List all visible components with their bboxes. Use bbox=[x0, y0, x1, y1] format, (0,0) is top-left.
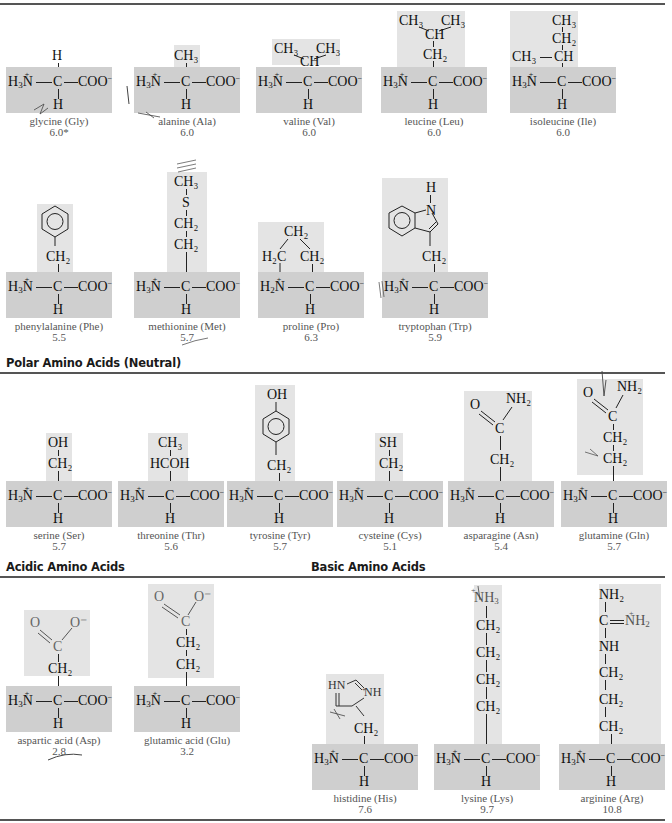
pen-annotation-marks bbox=[0, 0, 665, 823]
